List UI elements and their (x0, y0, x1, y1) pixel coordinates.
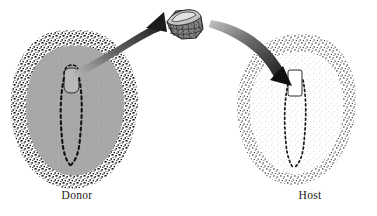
figure-canvas (0, 0, 377, 216)
donor-label: Donor (42, 189, 112, 201)
donor-embryo (11, 30, 138, 189)
host-embryo (237, 34, 356, 185)
host-label: Host (280, 189, 340, 201)
tissue-graft (167, 10, 203, 39)
embryo-graft-figure: Donor Host (0, 0, 377, 216)
